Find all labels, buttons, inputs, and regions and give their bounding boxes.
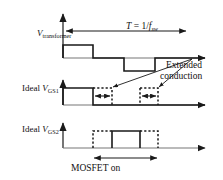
label-ideal-vgs1: Ideal VGS1 [22, 83, 59, 94]
label-v-transformer-sub: transformer [43, 32, 72, 39]
label-ideal-vgs1-main: V [42, 83, 48, 93]
label-switching-period: T = 1/fsw [126, 21, 158, 32]
label-ideal-vgs2: Ideal VGS2 [22, 124, 59, 135]
label-period-equals: = 1/ [131, 21, 149, 31]
label-extended-line1: Extended [166, 60, 202, 70]
label-v-transformer: Vtransformer [37, 28, 71, 39]
vgs1-waveform [63, 88, 205, 105]
label-v-transformer-main: V [37, 28, 43, 38]
label-ideal-vgs2-main: V [42, 124, 48, 134]
label-ideal-vgs2-prefix: Ideal [22, 124, 42, 134]
panel-ideal-vgs2 [63, 123, 205, 158]
label-ideal-vgs1-sub: GS1 [48, 87, 59, 94]
vgs2-extended-conduction-left [93, 131, 112, 148]
label-period-f-sub: sw [151, 25, 158, 32]
label-ideal-vgs1-prefix: Ideal [22, 83, 42, 93]
label-mosfet-on: MOSFET on [71, 163, 120, 173]
vgs2-waveform [112, 131, 140, 148]
vgs2-extended-conduction-right [140, 131, 158, 148]
label-ideal-vgs2-sub: GS2 [48, 128, 59, 135]
waveform-figure: Vtransformer T = 1/fsw Ideal VGS1 Ideal … [0, 0, 223, 180]
label-extended-line2: conduction [160, 71, 202, 81]
